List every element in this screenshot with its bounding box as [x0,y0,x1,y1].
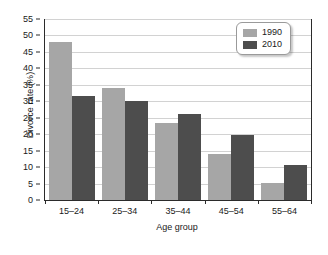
bar-2010-35–44 [178,114,201,200]
bar-1990-15–24 [49,42,72,200]
y-axis-tick-mark [36,150,40,151]
y-axis-tick-mark [36,84,40,85]
x-axis-tick-mark [45,200,46,204]
bar-group [49,19,95,200]
y-axis-tick-mark [36,183,40,184]
legend-item-2010: 2010 [243,40,282,49]
y-axis-tick-mark [36,19,40,20]
bar-group [155,19,201,200]
bar-1990-25–34 [102,88,125,200]
legend-label: 2010 [262,40,282,49]
y-axis-tick-mark [36,35,40,36]
y-axis-tick-mark [36,117,40,118]
x-axis-tick-label: 25–34 [112,206,137,216]
x-axis-tick-mark [258,200,259,204]
legend: 19902010 [236,22,291,55]
y-axis-tick-mark [36,51,40,52]
y-axis-tick-label: 30 [13,97,33,106]
bar-1990-45–54 [208,154,231,200]
legend-swatch-2010 [243,41,257,49]
y-axis-tick-mark [36,68,40,69]
x-axis-title: Age group [44,222,310,232]
y-axis-tick-label: 55 [13,15,33,24]
bar-2010-25–34 [125,101,148,200]
x-axis-tick-label: 55–64 [272,206,297,216]
bar-1990-55–64 [261,183,284,200]
y-axis-tick-label: 15 [13,146,33,155]
y-axis-tick-label: 0 [13,196,33,205]
y-axis-tick-label: 40 [13,64,33,73]
legend-item-1990: 1990 [243,28,282,37]
bar-2010-55–64 [284,165,307,200]
legend-label: 1990 [262,28,282,37]
y-axis-tick-label: 45 [13,47,33,56]
y-axis-tick-mark [36,134,40,135]
x-axis-tick-mark [311,200,312,204]
x-axis-tick-mark [205,200,206,204]
x-axis-tick-label: 15–24 [59,206,84,216]
x-axis-tick-label: 35–44 [165,206,190,216]
x-axis-tick-label: 45–54 [219,206,244,216]
bar-2010-45–54 [231,135,254,200]
y-axis-tick-mark [36,200,40,201]
y-axis-tick-label: 20 [13,130,33,139]
divorce-rate-bar-chart: Divorce rate (%) 0510152025303540455055 … [0,0,328,255]
legend-swatch-1990 [243,29,257,37]
x-axis-tick-mark [98,200,99,204]
y-axis-tick-label: 35 [13,80,33,89]
bar-1990-35–44 [155,123,178,200]
y-axis-tick-mark [36,167,40,168]
y-axis-tick-mark [36,101,40,102]
y-axis-tick-label: 5 [13,179,33,188]
bar-2010-15–24 [72,96,95,200]
y-axis-tick-labels: 0510152025303540455055 [20,14,40,200]
x-axis-tick-mark [151,200,152,204]
bar-group [102,19,148,200]
y-axis-tick-label: 10 [13,163,33,172]
y-axis-tick-label: 25 [13,113,33,122]
y-axis-tick-label: 50 [13,31,33,40]
